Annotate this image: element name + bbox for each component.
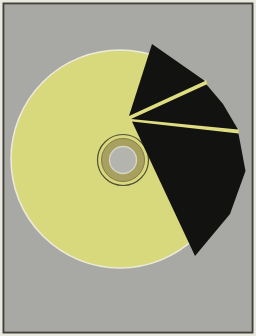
hub-center-hole: [110, 147, 137, 174]
cd-artwork-image: [0, 0, 256, 336]
cd-artwork-canvas: [0, 0, 256, 336]
